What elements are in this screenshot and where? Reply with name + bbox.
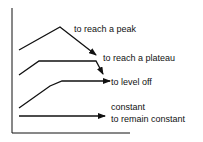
plateau-label: to reach a plateau — [103, 53, 175, 63]
level-off-line — [19, 81, 110, 108]
peak-label: to reach a peak — [74, 24, 136, 34]
level-off-label: to level off — [111, 77, 152, 87]
constant-top-label: constant — [111, 102, 145, 112]
plateau-line — [19, 61, 103, 75]
constant-label: to remain constant — [111, 114, 185, 124]
